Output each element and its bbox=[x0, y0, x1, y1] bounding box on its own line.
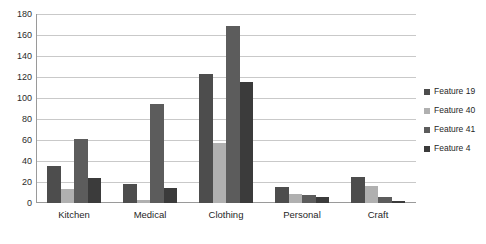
x-axis-tick-label: Personal bbox=[264, 209, 340, 220]
x-axis: KitchenMedicalClothingPersonalCraft bbox=[36, 206, 416, 226]
bar bbox=[199, 74, 213, 203]
legend-label: Feature 19 bbox=[434, 87, 475, 96]
bar bbox=[240, 82, 254, 203]
bar bbox=[123, 184, 137, 203]
bar bbox=[378, 197, 392, 203]
bars-layer bbox=[36, 14, 416, 203]
bar bbox=[316, 197, 330, 203]
bar bbox=[365, 186, 379, 203]
x-axis-tick-label: Kitchen bbox=[36, 209, 112, 220]
y-axis-tick-label: 140 bbox=[2, 52, 32, 61]
legend-item[interactable]: Feature 19 bbox=[424, 82, 486, 101]
legend-swatch-icon bbox=[424, 146, 430, 152]
y-axis-tick-label: 180 bbox=[2, 10, 32, 19]
y-axis-tick-label: 120 bbox=[2, 73, 32, 82]
legend-label: Feature 40 bbox=[434, 106, 475, 115]
y-axis-tick-label: 20 bbox=[2, 178, 32, 187]
bar bbox=[74, 139, 88, 203]
bar-chart: 020406080100120140160180 KitchenMedicalC… bbox=[0, 0, 486, 244]
bar-group bbox=[112, 14, 188, 203]
legend-swatch-icon bbox=[424, 127, 430, 133]
legend-label: Feature 41 bbox=[434, 125, 475, 134]
y-axis-tick-label: 60 bbox=[2, 136, 32, 145]
y-axis-tick-label: 80 bbox=[2, 115, 32, 124]
legend-swatch-icon bbox=[424, 108, 430, 114]
legend-swatch-icon bbox=[424, 89, 430, 95]
bar bbox=[213, 143, 227, 203]
bar bbox=[351, 177, 365, 203]
bar-group bbox=[264, 14, 340, 203]
legend-item[interactable]: Feature 41 bbox=[424, 120, 486, 139]
chart-legend: Feature 19Feature 40Feature 41Feature 4 bbox=[424, 82, 486, 158]
bar bbox=[137, 200, 151, 203]
x-axis-tick-label: Medical bbox=[112, 209, 188, 220]
bar-group bbox=[340, 14, 416, 203]
bar bbox=[392, 201, 406, 203]
y-axis-tick-label: 0 bbox=[2, 199, 32, 208]
y-axis-tick-label: 100 bbox=[2, 94, 32, 103]
bar-group bbox=[36, 14, 112, 203]
y-axis-tick-label: 160 bbox=[2, 31, 32, 40]
legend-label: Feature 4 bbox=[434, 144, 470, 153]
x-axis-tick-label: Craft bbox=[340, 209, 416, 220]
bar bbox=[61, 189, 75, 203]
y-axis: 020406080100120140160180 bbox=[0, 14, 32, 203]
bar bbox=[226, 26, 240, 203]
legend-item[interactable]: Feature 40 bbox=[424, 101, 486, 120]
bar bbox=[302, 195, 316, 203]
bar bbox=[88, 178, 102, 203]
bar bbox=[289, 194, 303, 203]
y-axis-tick-label: 40 bbox=[2, 157, 32, 166]
x-axis-tick-label: Clothing bbox=[188, 209, 264, 220]
bar bbox=[164, 188, 178, 203]
bar bbox=[150, 104, 164, 203]
legend-item[interactable]: Feature 4 bbox=[424, 139, 486, 158]
bar-group bbox=[188, 14, 264, 203]
bar bbox=[275, 187, 289, 203]
bar bbox=[47, 166, 61, 203]
